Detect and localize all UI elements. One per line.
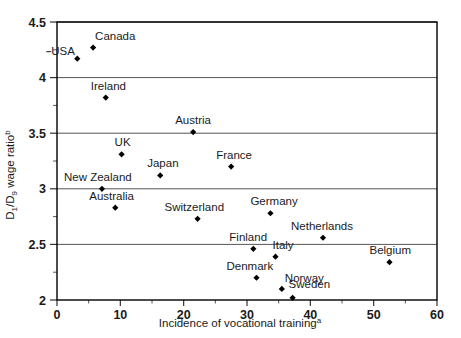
point-label: France xyxy=(216,149,252,161)
point-label: Australia xyxy=(89,190,134,202)
data-point: Japan xyxy=(147,157,178,178)
point-label: Italy xyxy=(273,239,294,251)
data-point: UK xyxy=(115,136,131,157)
point-label: USA xyxy=(51,45,75,57)
y-tick-label: 2 xyxy=(39,294,46,308)
data-point: Italy xyxy=(272,239,293,260)
point-label: Canada xyxy=(95,30,136,42)
point-marker xyxy=(267,210,273,216)
point-label: Finland xyxy=(229,231,267,243)
data-point: Netherlands xyxy=(291,220,353,241)
point-label: Belgium xyxy=(370,244,412,256)
y-tick-label: 3 xyxy=(39,182,46,196)
point-marker xyxy=(279,286,285,292)
chart-canvas: 0102030405060 22.533.544.5 USACanadaIrel… xyxy=(0,0,461,338)
point-label: Germany xyxy=(250,195,298,207)
gridlines xyxy=(57,22,437,244)
y-tick-label: 3.5 xyxy=(29,127,46,141)
point-label: Netherlands xyxy=(291,220,353,232)
point-marker xyxy=(112,205,118,211)
svg-text:Incidence of vocational traini: Incidence of vocational traininga xyxy=(159,316,322,329)
x-tick-label: 60 xyxy=(430,308,444,322)
point-label: Switzerland xyxy=(165,201,224,213)
point-marker xyxy=(253,275,259,281)
data-points: USACanadaIrelandAustriaUKJapanFranceNew … xyxy=(46,30,411,301)
point-marker xyxy=(157,172,163,178)
data-point: Canada xyxy=(90,30,136,51)
data-point: Finland xyxy=(229,231,267,252)
y-tick-label: 4.5 xyxy=(29,16,46,30)
point-label: New Zealand xyxy=(64,171,132,183)
point-label: UK xyxy=(115,136,131,148)
data-point: Sweden xyxy=(289,278,331,301)
point-label: Austria xyxy=(175,114,211,126)
point-marker xyxy=(74,56,80,62)
data-point: Switzerland xyxy=(165,201,224,222)
point-marker xyxy=(103,95,109,101)
svg-text:D1/D9 wage ratiob: D1/D9 wage ratiob xyxy=(3,130,19,220)
x-axis-title: Incidence of vocational traininga xyxy=(159,316,322,329)
point-marker xyxy=(250,246,256,252)
scatter-chart: 0102030405060 22.533.544.5 USACanadaIrel… xyxy=(0,0,461,338)
point-label: Ireland xyxy=(91,80,126,92)
point-marker xyxy=(195,216,201,222)
data-point: Austria xyxy=(175,114,211,135)
point-marker xyxy=(320,235,326,241)
y-tick-label: 2.5 xyxy=(29,238,46,252)
x-tick-label: 0 xyxy=(54,308,61,322)
point-label: Denmark xyxy=(227,260,274,272)
point-label: Japan xyxy=(147,157,178,169)
point-marker xyxy=(90,44,96,50)
data-point: USA xyxy=(46,45,80,62)
y-tick-label: 4 xyxy=(39,71,46,85)
data-point: Denmark xyxy=(227,260,274,281)
data-point: Australia xyxy=(89,190,134,211)
x-tick-label: 50 xyxy=(367,308,381,322)
data-point: Ireland xyxy=(91,80,126,101)
point-marker xyxy=(228,163,234,169)
point-marker xyxy=(272,254,278,260)
x-tick-label: 10 xyxy=(113,308,127,322)
y-axis-title: D1/D9 wage ratiob xyxy=(3,130,19,220)
point-marker xyxy=(119,151,125,157)
point-marker xyxy=(190,129,196,135)
data-point: Belgium xyxy=(370,244,412,265)
y-tick-labels: 22.533.544.5 xyxy=(29,16,46,308)
point-label: Sweden xyxy=(289,278,331,290)
point-marker xyxy=(386,259,392,265)
plot-frame xyxy=(57,22,437,300)
data-point: Germany xyxy=(250,195,298,216)
data-point: France xyxy=(216,149,252,170)
